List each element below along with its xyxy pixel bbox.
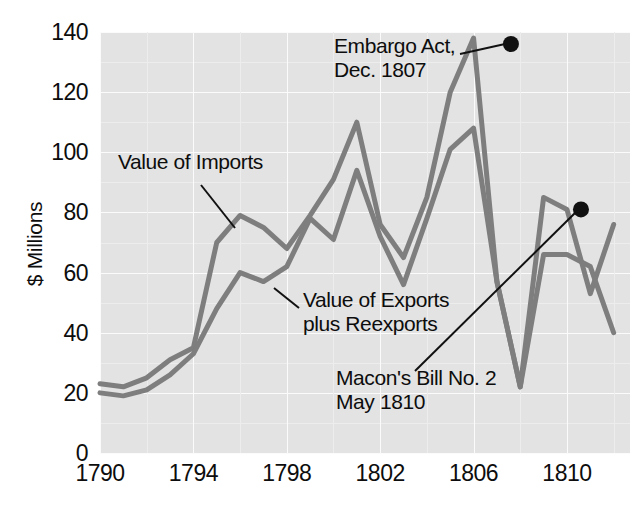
y-tick-label: 120 (22, 81, 88, 104)
y-tick-label: 40 (22, 322, 88, 345)
x-tick-label: 1794 (148, 462, 238, 485)
annotation-exports: Value of Exports plus Reexports (303, 288, 449, 335)
x-tick-label: 1802 (335, 462, 425, 485)
x-tick-label: 1810 (522, 462, 612, 485)
line-chart: $ Millions 140120100806040200 1790179417… (0, 0, 638, 506)
event-marker-dot-1 (573, 201, 589, 217)
y-axis-title: $ Millions (23, 174, 47, 314)
x-tick-label: 1790 (55, 462, 145, 485)
data-series-group (100, 38, 614, 396)
y-tick-label: 20 (22, 382, 88, 405)
annotation-macons-bill: Macon's Bill No. 2 May 1810 (336, 366, 496, 413)
event-marker-group (503, 36, 589, 217)
x-tick-label: 1798 (242, 462, 332, 485)
y-tick-label: 80 (22, 201, 88, 224)
annotation-imports: Value of Imports (118, 150, 263, 174)
chart-lines-layer (0, 0, 638, 506)
y-tick-label: 100 (22, 141, 88, 164)
event-marker-dot-0 (503, 36, 519, 52)
y-tick-label: 60 (22, 262, 88, 285)
annotation-embargo-act: Embargo Act, Dec. 1807 (334, 34, 455, 81)
y-tick-label: 140 (22, 21, 88, 44)
x-tick-label: 1806 (429, 462, 519, 485)
leader-line-imports (201, 185, 235, 228)
leader-line-exports (274, 288, 299, 308)
